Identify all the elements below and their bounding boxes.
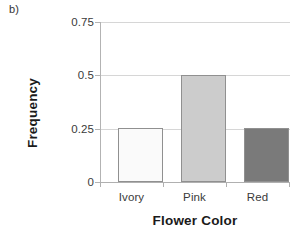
x-tick-mark-1	[163, 182, 164, 187]
plot-area	[100, 22, 290, 182]
y-tick-label-0: 0	[50, 176, 94, 188]
y-tick-label-05: 0.5	[50, 69, 94, 81]
y-axis-line	[100, 22, 101, 183]
bar-ivory	[118, 128, 163, 182]
y-axis-title: Frequency	[25, 78, 40, 148]
x-tick-mark-0	[100, 182, 101, 187]
bar-pink	[181, 75, 226, 182]
y-axis-tick-labels: 0.75 0.5 0.25 0	[50, 0, 94, 245]
y-tick-label-025: 0.25	[50, 123, 94, 135]
y-tick-label-075: 0.75	[50, 16, 94, 28]
gridline-075	[100, 22, 290, 23]
x-axis-title: Flower Color	[100, 213, 290, 228]
y-axis-title-container: Frequency	[22, 54, 42, 172]
x-tick-mark-2	[226, 182, 227, 187]
x-tick-mark-3	[289, 182, 290, 187]
x-tick-label-pink: Pink	[163, 190, 226, 204]
figure-panel-b: b) Frequency 0.75 0.5 0.25 0 Ivory Pink …	[0, 0, 305, 245]
bar-red	[244, 128, 289, 182]
x-tick-label-ivory: Ivory	[100, 190, 163, 204]
panel-label: b)	[9, 3, 19, 16]
x-axis-tick-labels: Ivory Pink Red	[100, 190, 290, 206]
x-tick-label-red: Red	[226, 190, 289, 204]
x-axis-line	[100, 182, 290, 183]
